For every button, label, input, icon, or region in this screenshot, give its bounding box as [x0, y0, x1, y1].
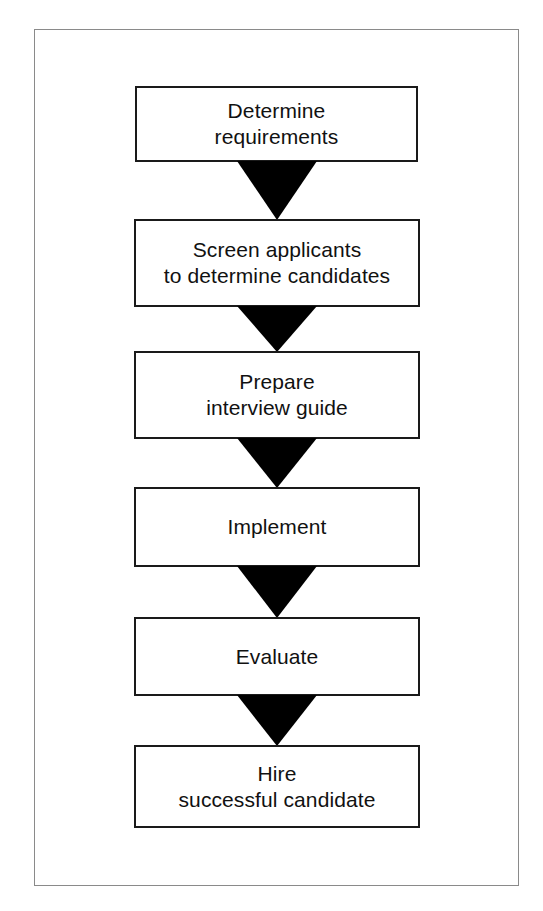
- flowchart-diagram: Determine requirements Screen applicants…: [35, 30, 518, 885]
- flow-node-label: Determine requirements: [209, 98, 345, 149]
- flow-node-evaluate: Evaluate: [134, 617, 420, 696]
- arrow-down-5: [237, 695, 317, 746]
- arrow-down-4: [237, 566, 317, 618]
- flow-node-prepare-interview-guide: Prepare interview guide: [134, 351, 420, 439]
- flow-node-label: Implement: [222, 514, 333, 540]
- arrow-down-2: [237, 306, 317, 352]
- flow-node-label: Hire successful candidate: [173, 761, 382, 812]
- flow-node-screen-applicants: Screen applicants to determine candidate…: [134, 219, 420, 307]
- flow-node-label: Evaluate: [230, 644, 325, 670]
- flow-node-label: Screen applicants to determine candidate…: [158, 237, 396, 288]
- flow-node-implement: Implement: [134, 487, 420, 567]
- arrow-down-3: [237, 438, 317, 488]
- flow-node-determine-requirements: Determine requirements: [135, 86, 418, 162]
- figure-frame: Determine requirements Screen applicants…: [34, 29, 519, 886]
- flow-node-hire-successful-candidate: Hire successful candidate: [134, 745, 420, 828]
- flow-node-label: Prepare interview guide: [200, 369, 354, 420]
- arrow-down-1: [237, 161, 317, 220]
